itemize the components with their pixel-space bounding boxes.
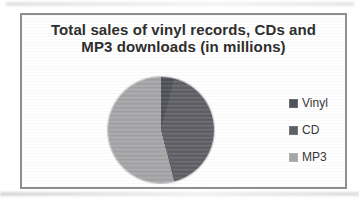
chart-title-line2: MP3 downloads (in millions)	[22, 38, 345, 55]
legend-label-cd: CD	[302, 124, 319, 137]
mp3-swatch-icon	[289, 153, 298, 162]
legend-item-vinyl: Vinyl	[289, 97, 328, 110]
pie-chart	[108, 77, 214, 183]
legend-label-mp3: MP3	[302, 151, 327, 164]
chart-title-line1: Total sales of vinyl records, CDs and	[22, 21, 345, 38]
legend-label-vinyl: Vinyl	[302, 97, 328, 110]
legend-item-mp3: MP3	[289, 151, 328, 164]
scan-streak-bottom	[0, 192, 359, 196]
legend: Vinyl CD MP3	[289, 97, 328, 164]
chart-frame: Total sales of vinyl records, CDs and MP…	[20, 13, 347, 189]
vinyl-swatch-icon	[289, 99, 298, 108]
scan-streak-top	[6, 2, 354, 6]
cd-swatch-icon	[289, 126, 298, 135]
chart-title: Total sales of vinyl records, CDs and MP…	[22, 21, 345, 55]
legend-item-cd: CD	[289, 124, 328, 137]
chart-image: Total sales of vinyl records, CDs and MP…	[0, 0, 359, 199]
